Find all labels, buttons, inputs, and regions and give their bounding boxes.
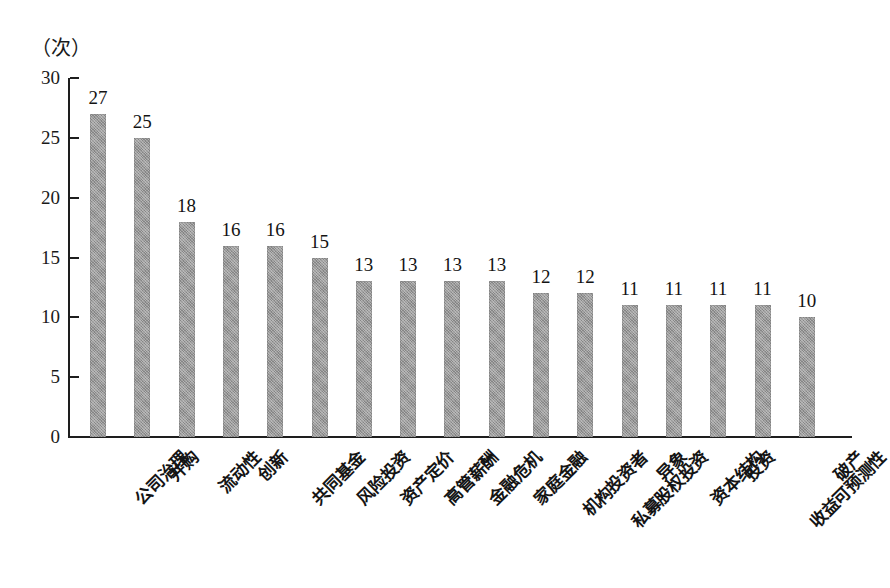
bar[interactable]	[489, 281, 505, 437]
bar-value-label: 27	[71, 88, 125, 107]
bar[interactable]	[134, 138, 150, 437]
bar[interactable]	[533, 293, 549, 437]
bar[interactable]	[400, 281, 416, 437]
bar[interactable]	[312, 258, 328, 438]
bar[interactable]	[90, 114, 106, 437]
bar-value-label: 25	[115, 112, 169, 131]
bar[interactable]	[710, 305, 726, 437]
bar-value-label: 15	[293, 232, 347, 251]
bar-value-label: 10	[780, 291, 834, 310]
bar[interactable]	[577, 293, 593, 437]
bar[interactable]	[179, 222, 195, 437]
bar[interactable]	[444, 281, 460, 437]
bar[interactable]	[356, 281, 372, 437]
bar[interactable]	[267, 246, 283, 437]
bar[interactable]	[755, 305, 771, 437]
bar[interactable]	[622, 305, 638, 437]
bar[interactable]	[799, 317, 815, 437]
bar[interactable]	[666, 305, 682, 437]
bar[interactable]	[223, 246, 239, 437]
bar-value-label: 18	[160, 196, 214, 215]
